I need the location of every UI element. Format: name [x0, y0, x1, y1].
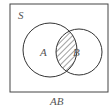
- universe-label: S: [18, 9, 24, 21]
- caption: AB: [49, 95, 64, 107]
- set-a-label: A: [39, 46, 47, 58]
- venn-diagram: S A B AB: [0, 0, 110, 111]
- set-b-label: B: [73, 46, 80, 58]
